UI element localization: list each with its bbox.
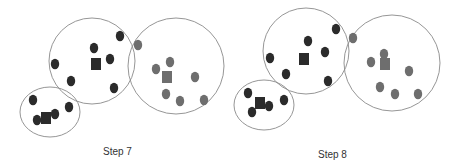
data-point — [280, 95, 288, 105]
data-point — [51, 59, 59, 69]
data-point — [65, 102, 73, 112]
data-point — [324, 76, 332, 86]
data-point — [349, 33, 357, 43]
data-point — [191, 72, 199, 82]
data-point — [367, 57, 375, 67]
cluster-middle-boundary — [263, 8, 349, 94]
step-label: Step 8 — [318, 149, 347, 160]
centroid-square-icon — [299, 53, 309, 65]
centroid-square-icon — [380, 58, 390, 70]
data-point — [266, 53, 274, 63]
centroid-square-icon — [41, 112, 51, 124]
data-point — [282, 69, 290, 79]
data-point — [67, 76, 75, 86]
data-point — [166, 57, 174, 67]
data-point — [90, 43, 98, 53]
data-point — [248, 107, 256, 117]
data-point — [106, 54, 114, 64]
data-point — [321, 47, 329, 57]
data-point — [391, 89, 399, 99]
data-point — [51, 109, 59, 119]
data-point — [176, 96, 184, 106]
data-point — [304, 36, 312, 46]
data-point — [376, 82, 384, 92]
data-point — [380, 49, 388, 59]
data-point — [152, 64, 160, 74]
k-means-cluster-diagram — [0, 0, 458, 166]
data-point — [405, 66, 413, 76]
data-point — [265, 101, 273, 111]
data-point — [162, 89, 170, 99]
data-point — [110, 83, 118, 93]
data-point — [200, 95, 208, 105]
centroid-square-icon — [255, 97, 265, 109]
centroid-square-icon — [91, 58, 101, 70]
data-point — [332, 24, 340, 34]
data-point — [244, 88, 252, 98]
data-point — [116, 31, 124, 41]
centroid-square-icon — [162, 71, 172, 83]
data-point — [33, 115, 41, 125]
step-panel-2 — [234, 8, 440, 130]
step-label: Step 7 — [103, 146, 132, 157]
data-point — [29, 95, 37, 105]
data-point — [134, 40, 142, 50]
step-panel-1 — [20, 18, 224, 137]
data-point — [414, 89, 422, 99]
